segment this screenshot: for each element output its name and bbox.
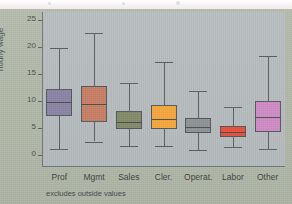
upper-whisker-line (164, 62, 165, 105)
upper-whisker-line (59, 48, 60, 89)
scan-speck (48, 2, 51, 5)
box-iqr-rect (116, 111, 142, 129)
upper-whisker-cap (155, 62, 173, 63)
scan-speck (176, 1, 180, 5)
y-tick-label: 15 (27, 68, 36, 78)
lower-whisker-cap (85, 142, 103, 143)
x-tick-label-labor: Labor (222, 172, 244, 182)
y-axis-line (42, 12, 43, 167)
upper-whisker-cap (50, 48, 68, 49)
lower-whisker-line (198, 133, 199, 150)
y-tick-label: 25 (27, 14, 36, 24)
box-iqr-rect (185, 118, 211, 133)
y-axis-label: hourly wage (0, 28, 5, 71)
upper-whisker-line (198, 91, 199, 118)
screenshot-page: 0510152025 hourly wage ProfMgmtSalesCler… (0, 0, 292, 204)
y-tick-label: 5 (32, 122, 36, 132)
lower-whisker-cap (120, 146, 138, 147)
x-tick-label-sales: Sales (118, 172, 139, 182)
box-iqr-rect (151, 105, 177, 129)
median-line (220, 132, 246, 133)
median-line (185, 127, 211, 128)
lower-whisker-line (164, 129, 165, 147)
x-tick-label-operat: Operat. (184, 172, 212, 182)
upper-whisker-line (233, 107, 234, 125)
box-iqr-rect (220, 126, 246, 137)
lower-whisker-cap (155, 146, 173, 147)
lower-whisker-line (94, 122, 95, 141)
lower-whisker-cap (259, 149, 277, 150)
y-tick-label: 20 (27, 41, 36, 51)
median-line (46, 102, 72, 103)
x-tick-label-other: Other (257, 172, 278, 182)
lower-whisker-line (59, 116, 60, 149)
upper-whisker-cap (120, 83, 138, 84)
y-tick-mark (38, 74, 42, 75)
x-axis-line (42, 166, 285, 167)
lower-whisker-line (233, 137, 234, 147)
y-tick-label: 0 (32, 149, 36, 159)
upper-whisker-line (268, 56, 269, 101)
y-tick-mark (38, 47, 42, 48)
scan-speck (122, 2, 125, 5)
upper-whisker-cap (85, 33, 103, 34)
y-tick-mark (38, 155, 42, 156)
x-tick-label-cler: Cler. (155, 172, 172, 182)
chart-footnote: excludes outside values (46, 189, 126, 198)
y-tick-mark (38, 128, 42, 129)
upper-whisker-line (94, 33, 95, 86)
x-tick-label-mgmt: Mgmt (83, 172, 104, 182)
lower-whisker-cap (224, 147, 242, 148)
lower-whisker-cap (50, 149, 68, 150)
x-tick-label-prof: Prof (52, 172, 68, 182)
median-line (255, 117, 281, 118)
lower-whisker-line (268, 132, 269, 149)
median-line (151, 119, 177, 120)
median-line (81, 104, 107, 105)
upper-whisker-cap (224, 107, 242, 108)
upper-whisker-line (129, 83, 130, 111)
chart-figure: 0510152025 hourly wage ProfMgmtSalesCler… (0, 9, 292, 204)
upper-whisker-cap (259, 56, 277, 57)
upper-whisker-cap (189, 91, 207, 92)
y-tick-mark (38, 20, 42, 21)
lower-whisker-line (129, 129, 130, 146)
lower-whisker-cap (189, 150, 207, 151)
median-line (116, 122, 142, 123)
page-top-strip (0, 0, 292, 9)
y-tick-mark (38, 101, 42, 102)
y-tick-label: 10 (27, 95, 36, 105)
